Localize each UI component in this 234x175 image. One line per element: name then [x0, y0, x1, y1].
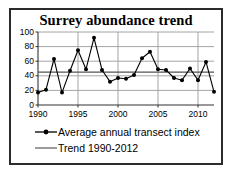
chart-legend: Average annual transect index Trend 1990… — [34, 124, 214, 156]
x-tick-label: 1995 — [63, 109, 93, 119]
legend-label-trend: Trend 1990-2012 — [58, 140, 138, 156]
x-tick-label: 2000 — [103, 109, 133, 119]
legend-line-marker-icon — [34, 124, 58, 140]
x-tick-label: 2010 — [183, 109, 213, 119]
data-series-markers — [36, 36, 216, 95]
y-tick-label: 100 — [14, 27, 34, 37]
chart-figure: Surrey abundance trend 020406080100 1990… — [0, 0, 234, 175]
axis-lines — [36, 32, 215, 108]
data-series-line — [38, 38, 214, 93]
x-tick-label: 2005 — [143, 109, 173, 119]
x-tick-label: 1990 — [23, 109, 53, 119]
y-tick-label: 60 — [14, 56, 34, 66]
gridlines — [38, 32, 214, 105]
y-tick-label: 40 — [14, 70, 34, 80]
legend-label-series: Average annual transect index — [58, 124, 200, 140]
y-tick-label: 0 — [14, 100, 34, 110]
legend-item-series: Average annual transect index — [34, 124, 214, 140]
y-tick-label: 20 — [14, 85, 34, 95]
legend-item-trend: Trend 1990-2012 — [34, 140, 214, 156]
legend-line-icon — [34, 140, 58, 156]
y-tick-label: 80 — [14, 41, 34, 51]
